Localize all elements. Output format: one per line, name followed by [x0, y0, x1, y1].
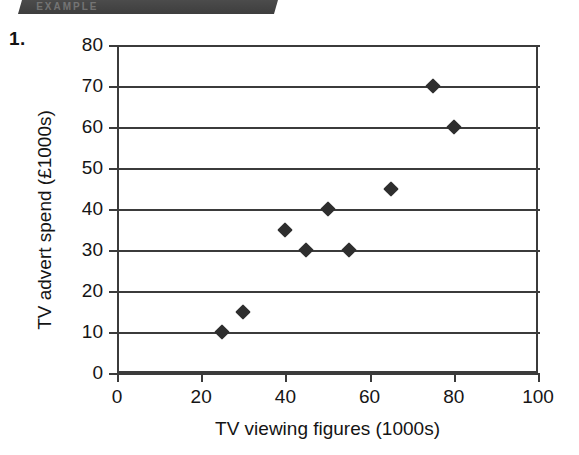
x-tick-40	[285, 373, 287, 382]
y-tick-10	[109, 332, 118, 334]
y-tick-label-50: 50	[82, 157, 103, 179]
x-tick-label-100: 100	[522, 386, 554, 408]
x-tick-label-80: 80	[443, 386, 464, 408]
gridline-y-80	[119, 45, 540, 47]
x-tick-label-0: 0	[112, 386, 123, 408]
x-tick-0	[117, 365, 119, 382]
x-tick-label-20: 20	[191, 386, 212, 408]
y-tick-label-40: 40	[82, 198, 103, 220]
y-tick-80	[109, 45, 118, 47]
x-tick-label-60: 60	[359, 386, 380, 408]
gridline-y-0	[119, 373, 540, 375]
y-tick-label-70: 70	[82, 75, 103, 97]
x-tick-label-40: 40	[275, 386, 296, 408]
gridline-y-10	[119, 332, 540, 334]
scatter-chart: TV viewing figures (1000s) TV advert spe…	[0, 0, 579, 455]
gridline-y-50	[119, 168, 540, 170]
y-tick-label-30: 30	[82, 239, 103, 261]
y-tick-70	[109, 86, 118, 88]
x-tick-20	[201, 373, 203, 382]
y-axis-title: TV advert spend (£1000s)	[34, 55, 56, 385]
y-tick-30	[109, 250, 118, 252]
gridline-y-60	[119, 127, 540, 129]
y-tick-label-80: 80	[82, 34, 103, 56]
gridline-y-30	[119, 250, 540, 252]
y-tick-60	[109, 127, 118, 129]
y-tick-label-60: 60	[82, 116, 103, 138]
x-tick-80	[454, 373, 456, 382]
x-tick-100	[538, 373, 540, 382]
y-tick-label-0: 0	[92, 362, 103, 384]
x-tick-60	[370, 373, 372, 382]
y-tick-label-20: 20	[82, 280, 103, 302]
y-tick-20	[109, 291, 118, 293]
gridline-y-70	[119, 86, 540, 88]
y-tick-40	[109, 209, 118, 211]
y-tick-label-10: 10	[82, 321, 103, 343]
x-axis-title: TV viewing figures (1000s)	[117, 418, 538, 440]
y-tick-50	[109, 168, 118, 170]
gridline-y-20	[119, 291, 540, 293]
